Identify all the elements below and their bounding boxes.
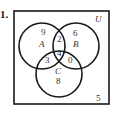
region-outside: 5	[96, 93, 101, 103]
region-a-b-c: 4	[57, 48, 62, 58]
set-b-label: B	[73, 39, 79, 49]
universe-label: U	[95, 14, 102, 24]
region-a-and-c: 3	[45, 55, 50, 65]
venn-diagram: U A B C 9 6 8 2 3 0 4 5	[0, 0, 113, 113]
set-a-label: A	[38, 39, 45, 49]
region-b-only: 6	[73, 28, 78, 38]
region-a-and-b: 2	[57, 34, 62, 44]
set-c-label: C	[55, 66, 62, 76]
region-a-only: 9	[41, 27, 46, 37]
region-b-and-c: 0	[68, 55, 73, 65]
region-c-only: 8	[56, 76, 61, 86]
